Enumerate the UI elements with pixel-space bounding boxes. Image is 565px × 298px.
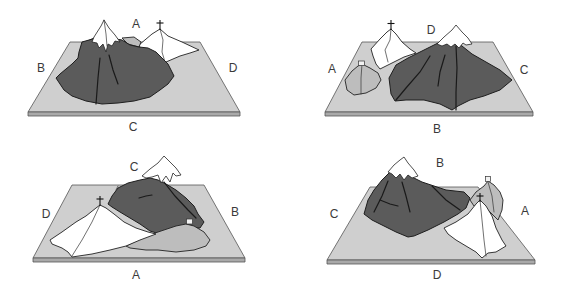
- side-label-right: B: [231, 205, 239, 219]
- side-label-left: C: [330, 207, 339, 221]
- summit-cross-icon: [157, 20, 164, 30]
- side-label-left: B: [37, 61, 45, 75]
- base-plate-edge: [327, 260, 535, 264]
- panel-bottom-right: B C A D: [327, 156, 535, 282]
- hut-icon: [486, 177, 491, 182]
- mountain-views-diagram: A B D C D A C B: [0, 0, 565, 298]
- panel-top-right: D A C B: [325, 20, 533, 136]
- side-label-right: D: [229, 61, 238, 75]
- side-label-bottom: D: [433, 268, 442, 282]
- side-label-bottom: C: [129, 120, 138, 134]
- side-label-bottom: A: [132, 268, 140, 282]
- side-label-left: D: [42, 207, 51, 221]
- base-plate-edge: [325, 112, 533, 116]
- side-label-right: C: [520, 63, 529, 77]
- side-label-top: D: [427, 23, 436, 37]
- hut-icon: [187, 219, 193, 224]
- panel-top-left: A B D C: [28, 17, 240, 134]
- base-plate-edge: [28, 112, 240, 116]
- side-label-left: A: [328, 62, 336, 76]
- side-label-top: B: [436, 156, 444, 170]
- side-label-top: A: [132, 17, 140, 31]
- panel-bottom-left: C D B A: [33, 156, 245, 282]
- hut-icon: [359, 61, 365, 66]
- summit-cross-icon: [388, 20, 395, 30]
- side-label-right: A: [521, 204, 529, 218]
- base-plate-edge: [33, 258, 245, 262]
- side-label-top: C: [130, 160, 139, 174]
- side-label-bottom: B: [433, 122, 441, 136]
- snow-cap: [437, 25, 472, 48]
